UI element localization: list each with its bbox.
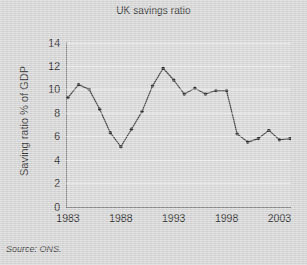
data-point-marker bbox=[130, 127, 133, 130]
gridline bbox=[66, 66, 291, 67]
y-tick-label: 10 bbox=[48, 83, 60, 95]
data-point-marker bbox=[161, 67, 164, 70]
gridline bbox=[66, 183, 291, 184]
chart-title: UK savings ratio bbox=[0, 5, 307, 16]
data-point-marker bbox=[66, 96, 69, 99]
y-tick-label: 12 bbox=[48, 60, 60, 72]
x-tick-label: 1983 bbox=[56, 212, 79, 224]
data-point-marker bbox=[77, 83, 80, 86]
data-point-marker bbox=[257, 137, 260, 140]
plot-area bbox=[66, 42, 291, 208]
gridline bbox=[66, 160, 291, 161]
y-tick-label: 8 bbox=[54, 107, 60, 119]
x-tick-label: 1998 bbox=[215, 212, 238, 224]
data-point-marker bbox=[183, 92, 186, 95]
x-axis-ticks: 19831988199319982003 bbox=[0, 212, 307, 228]
x-tick-label: 1993 bbox=[162, 212, 185, 224]
y-axis-ticks: 02468101214 bbox=[0, 42, 66, 208]
x-tick-label: 2003 bbox=[268, 212, 291, 224]
gridline bbox=[66, 89, 291, 90]
data-point-marker bbox=[278, 138, 281, 141]
data-point-marker bbox=[109, 131, 112, 134]
figure: UK savings ratio Saving ratio % of GDP 0… bbox=[0, 0, 307, 265]
gridline bbox=[66, 136, 291, 137]
data-point-marker bbox=[172, 78, 175, 81]
y-tick-label: 4 bbox=[54, 154, 60, 166]
x-tick-label: 1988 bbox=[109, 212, 132, 224]
data-point-marker bbox=[204, 92, 207, 95]
y-tick-label: 0 bbox=[54, 201, 60, 213]
y-tick-label: 14 bbox=[48, 37, 60, 49]
series-line bbox=[68, 68, 290, 146]
data-point-marker bbox=[267, 129, 270, 132]
source-note: Source: ONS. bbox=[6, 244, 62, 254]
data-point-marker bbox=[246, 140, 249, 143]
data-point-marker bbox=[119, 145, 122, 148]
data-point-marker bbox=[98, 108, 101, 111]
y-tick-label: 2 bbox=[54, 177, 60, 189]
y-tick-label: 6 bbox=[54, 130, 60, 142]
gridline bbox=[66, 43, 291, 44]
data-point-marker bbox=[288, 137, 291, 140]
gridline bbox=[66, 113, 291, 114]
data-point-marker bbox=[151, 84, 154, 87]
